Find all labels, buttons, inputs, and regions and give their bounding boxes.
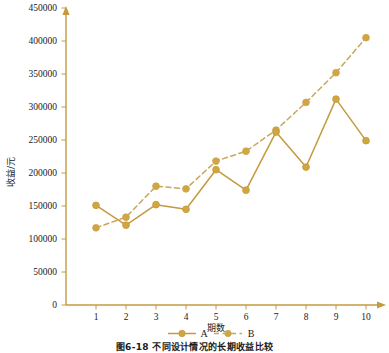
- data-point: [123, 222, 130, 229]
- series-b-markers: [93, 34, 370, 231]
- x-tick-label: 10: [361, 312, 371, 322]
- x-tick-label: 4: [184, 312, 189, 322]
- x-tick-label: 6: [244, 312, 249, 322]
- y-tick-label: 300000: [29, 102, 58, 112]
- x-tick-label: 7: [274, 312, 279, 322]
- x-tick-label: 8: [304, 312, 309, 322]
- series-b-line: [96, 38, 366, 228]
- y-tick-label: 50000: [33, 267, 57, 277]
- legend-label-a: A: [200, 328, 208, 339]
- data-point: [213, 166, 220, 173]
- data-point: [363, 137, 370, 144]
- data-point: [123, 214, 130, 221]
- figure-caption: 图6-18 不同设计情况的长期收益比较: [0, 340, 389, 353]
- y-tick-label: 250000: [29, 135, 58, 145]
- x-tick-label: 2: [124, 312, 129, 322]
- x-tick-label: 1: [94, 312, 99, 322]
- x-axis: [66, 301, 386, 308]
- data-point: [303, 99, 310, 106]
- data-point: [273, 129, 280, 136]
- data-point: [303, 164, 310, 171]
- y-axis-tick-labels: 0 50000 100000 150000 200000 250000 3000…: [29, 3, 58, 310]
- x-axis-tick-labels: 1 2 3 4 5 6 7 8 9 10: [94, 312, 371, 322]
- y-tick-label: 400000: [29, 36, 58, 46]
- y-tick-label: 200000: [29, 168, 58, 178]
- y-tick-label: 350000: [29, 69, 58, 79]
- data-point: [93, 202, 100, 209]
- data-point: [333, 96, 340, 103]
- data-point: [363, 34, 370, 41]
- data-point: [153, 183, 160, 190]
- data-point: [93, 224, 100, 231]
- x-tick-label: 5: [214, 312, 219, 322]
- x-axis-title: 期数: [207, 322, 225, 333]
- legend-label-b: B: [248, 328, 255, 339]
- data-point: [213, 158, 220, 165]
- data-point: [153, 201, 160, 208]
- data-point: [183, 185, 190, 192]
- legend-item-a[interactable]: A: [168, 328, 208, 339]
- y-axis-title: 收益/元: [5, 157, 16, 187]
- y-axis: [62, 6, 69, 305]
- data-point: [243, 148, 250, 155]
- x-tick-label: 9: [334, 312, 339, 322]
- data-point: [243, 187, 250, 194]
- y-tick-label: 0: [52, 300, 57, 310]
- data-point: [183, 206, 190, 213]
- y-tick-label: 150000: [29, 201, 58, 211]
- data-point: [333, 69, 340, 76]
- y-tick-label: 450000: [29, 3, 58, 13]
- x-tick-label: 3: [154, 312, 159, 322]
- y-tick-label: 100000: [29, 234, 58, 244]
